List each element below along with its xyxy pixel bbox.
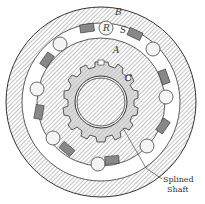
- roller: [91, 157, 105, 171]
- label-shaft: Shaft: [167, 185, 189, 194]
- roller: [159, 90, 173, 104]
- label-keyway-c: C: [125, 73, 132, 83]
- roller: [140, 139, 154, 153]
- label-splined: Splined: [163, 175, 194, 184]
- roller: [146, 42, 160, 56]
- keyway-slot: [98, 60, 104, 65]
- spring: [80, 23, 95, 33]
- label-spring-s: S: [120, 25, 126, 35]
- roller: [30, 82, 44, 96]
- spring: [105, 155, 120, 164]
- roller: [53, 37, 67, 51]
- roller: [46, 131, 60, 145]
- label-roller-r: R: [102, 23, 110, 33]
- label-outer-race-b: B: [114, 7, 122, 17]
- label-inner-a: A: [112, 45, 120, 55]
- roller-clutch-diagram: B R S A C Splined Shaft: [0, 0, 205, 204]
